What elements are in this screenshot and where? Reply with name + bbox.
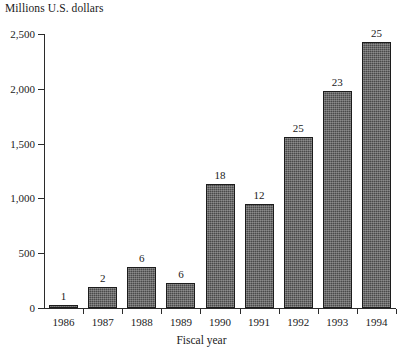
x-axis-tick	[396, 309, 397, 314]
x-axis-tick	[279, 309, 280, 314]
y-axis-tick-label: 2,000	[10, 83, 35, 95]
x-axis-tick-label-1994: 1994	[356, 316, 396, 328]
y-axis-tick	[38, 308, 44, 309]
x-axis-tick-label-1993: 1993	[317, 316, 357, 328]
x-axis-line	[44, 308, 396, 309]
bar-value-label-1994: 25	[356, 27, 396, 39]
y-axis-tick	[38, 253, 44, 254]
bar-1990	[206, 184, 235, 308]
bar-1986	[49, 305, 78, 308]
bar-1988	[127, 267, 156, 308]
y-axis-tick-label: 0	[30, 302, 36, 314]
bar-value-label-1993: 23	[317, 76, 357, 88]
y-axis-tick	[38, 144, 44, 145]
x-axis-tick	[122, 309, 123, 314]
bar-1994	[362, 42, 391, 308]
y-axis-tick-label: 500	[19, 247, 36, 259]
x-axis-tick-label-1989: 1989	[161, 316, 201, 328]
bar-1991	[245, 204, 274, 308]
bar-1993	[323, 91, 352, 308]
bar-1987	[88, 287, 117, 308]
bar-chart: Millions U.S. dollars 05001,0001,5002,00…	[0, 0, 403, 354]
x-axis-tick	[318, 309, 319, 314]
bar-value-label-1988: 6	[122, 252, 162, 264]
y-axis-tick-label: 2,500	[10, 28, 35, 40]
bar-value-label-1990: 18	[200, 169, 240, 181]
bar-value-label-1986: 1	[44, 290, 84, 302]
bar-1989	[166, 283, 195, 308]
bar-1992	[284, 137, 313, 308]
bar-value-label-1992: 25	[278, 122, 318, 134]
bar-value-label-1989: 6	[161, 268, 201, 280]
chart-title: Millions U.S. dollars	[5, 2, 104, 14]
bar-value-label-1991: 12	[239, 189, 279, 201]
x-axis-tick	[240, 309, 241, 314]
y-axis-tick-label: 1,500	[10, 138, 35, 150]
x-axis-tick	[200, 309, 201, 314]
x-axis-tick	[161, 309, 162, 314]
x-axis-tick-label-1990: 1990	[200, 316, 240, 328]
y-axis-tick	[38, 198, 44, 199]
y-axis-line	[44, 34, 45, 309]
x-axis-tick-label-1992: 1992	[278, 316, 318, 328]
y-axis-tick-label: 1,000	[10, 192, 35, 204]
x-axis-tick	[357, 309, 358, 314]
x-axis-tick-label-1991: 1991	[239, 316, 279, 328]
x-axis-tick-label-1986: 1986	[44, 316, 84, 328]
x-axis-title: Fiscal year	[0, 334, 403, 346]
y-axis-tick	[38, 89, 44, 90]
y-axis-tick	[38, 34, 44, 35]
x-axis-tick-label-1987: 1987	[83, 316, 123, 328]
x-axis-tick	[83, 309, 84, 314]
x-axis-tick-label-1988: 1988	[122, 316, 162, 328]
bar-value-label-1987: 2	[83, 272, 123, 284]
